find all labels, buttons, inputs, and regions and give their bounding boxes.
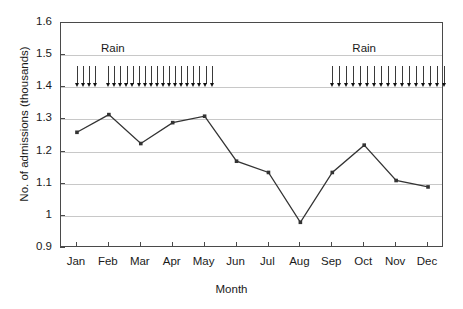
data-point-jul <box>267 171 271 175</box>
data-point-may <box>203 114 207 118</box>
x-tick-label-dec: Dec <box>407 256 447 268</box>
rain-arrow-shaft <box>444 66 445 83</box>
y-tick-label: 0.9 <box>8 241 52 253</box>
data-point-mar <box>139 142 143 146</box>
data-series-line <box>61 23 444 248</box>
y-tick-label: 1.6 <box>8 16 52 28</box>
data-point-aug <box>299 220 303 224</box>
y-tick-label: 1.3 <box>8 112 52 124</box>
data-point-apr <box>171 121 175 125</box>
y-tick-label: 1.5 <box>8 48 52 60</box>
data-point-jun <box>235 159 239 163</box>
plot-area: RainRain <box>60 22 443 247</box>
y-tick-label: 1.1 <box>8 177 52 189</box>
data-point-nov <box>394 179 398 183</box>
data-point-oct <box>362 143 366 147</box>
data-point-feb <box>107 113 111 117</box>
data-point-dec <box>426 185 430 189</box>
y-tick-label: 1.2 <box>8 145 52 157</box>
series-polyline <box>77 115 428 223</box>
data-point-jan <box>75 130 79 134</box>
y-tick-label: 1 <box>8 209 52 221</box>
data-point-sep <box>330 171 334 175</box>
y-tick-label: 1.4 <box>8 80 52 92</box>
chart-figure: No. of admissions (thousands) Month 0.91… <box>0 0 463 309</box>
